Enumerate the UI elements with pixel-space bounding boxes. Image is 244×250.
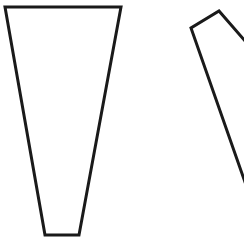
quadrilateral-right-shape xyxy=(191,11,244,185)
trapezoid-left-shape xyxy=(5,7,121,235)
diagram-canvas xyxy=(0,0,244,250)
